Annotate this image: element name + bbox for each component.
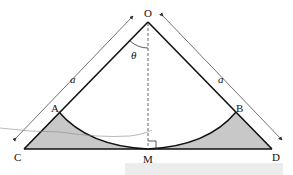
side-label-right: a: [218, 73, 224, 85]
geometry-diagram: O A B C D M θ a a: [0, 0, 293, 175]
angle-theta-arc: [130, 41, 148, 48]
point-label-C: C: [14, 151, 21, 163]
side-OC: [24, 22, 148, 149]
point-label-D: D: [272, 151, 280, 163]
point-label-O: O: [144, 7, 152, 19]
side-OD: [148, 22, 272, 149]
point-label-B: B: [236, 102, 243, 114]
point-label-M: M: [143, 153, 153, 165]
side-label-left: a: [70, 73, 76, 85]
angle-label-theta: θ: [131, 49, 137, 61]
right-angle-marker: [148, 141, 156, 149]
point-label-A: A: [51, 102, 59, 114]
